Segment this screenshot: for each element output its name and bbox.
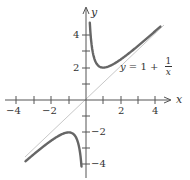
function-plot	[0, 0, 190, 180]
fraction-denominator: x	[166, 67, 171, 77]
curve-branch-negative	[25, 132, 81, 166]
x-tick-label-neg4: −4	[6, 106, 21, 116]
equation-fraction: 1 x	[165, 56, 173, 77]
asymptote-line	[25, 25, 164, 157]
y-tick-label-4: 4	[73, 30, 79, 40]
y-tick-label-neg2: −2	[91, 127, 106, 137]
y-tick-label-2: 2	[73, 63, 79, 73]
equation-mid: = 1 +	[126, 61, 162, 72]
x-axis-label: x	[176, 94, 182, 105]
y-tick-label-neg4: −4	[91, 159, 106, 169]
x-tick-label-4: 4	[152, 106, 158, 116]
equation-label: y = 1 + 1 x	[120, 56, 172, 77]
x-tick-label-neg2: −2	[42, 106, 57, 116]
fraction-numerator: 1	[165, 56, 173, 67]
y-axis-label: y	[91, 7, 97, 18]
x-tick-label-2: 2	[118, 106, 124, 116]
